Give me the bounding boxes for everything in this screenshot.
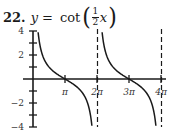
axes: [23, 31, 166, 127]
x-tick-label: π: [61, 87, 69, 97]
y-tick-label: 4: [18, 26, 24, 36]
y-tick-label: −2: [11, 98, 24, 108]
y-tick-label: 2: [18, 50, 24, 60]
x-tick-label: 4π: [154, 87, 168, 97]
cotangent-plot: 42−2−4π2π3π4π: [0, 0, 175, 140]
x-tick-label: 2π: [90, 87, 104, 97]
x-tick-label: 3π: [123, 87, 136, 97]
y-tick-label: −4: [11, 122, 25, 132]
